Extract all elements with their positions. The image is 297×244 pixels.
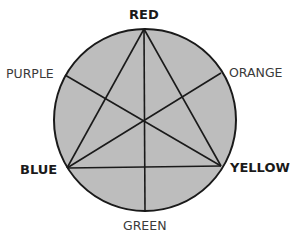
color-wheel-diagram [0,0,297,244]
label-orange: ORANGE [229,67,283,80]
label-blue: BLUE [20,163,57,176]
label-yellow: YELLOW [230,161,290,174]
label-red: RED [129,8,159,21]
label-green: GREEN [123,220,167,233]
label-purple: PURPLE [6,68,54,81]
